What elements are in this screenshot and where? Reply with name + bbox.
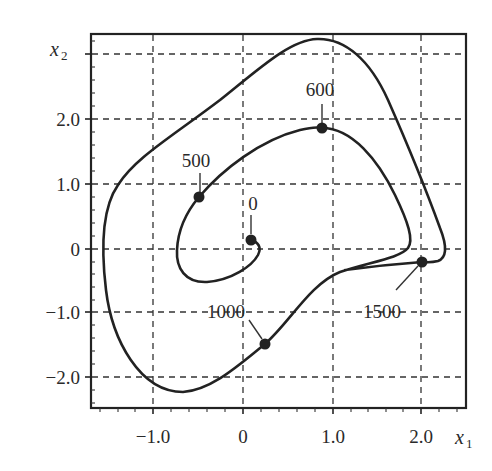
x-axis-title-sub: 1 [466,436,473,451]
major-ticks [85,54,421,414]
y-tick-label: 2.0 [56,109,80,130]
x-tick-labels: −1.0 0 1.0 2.0 [136,426,433,447]
plot-frame [91,34,466,408]
x-tick-label: 0 [238,426,248,447]
x-tick-label: 2.0 [409,426,433,447]
annotation-label: 600 [306,79,335,100]
annotation-0: 0 [246,193,258,246]
y-tick-label: −2.0 [46,367,80,388]
annotation-500: 500 [182,150,211,203]
data-point-marker [317,123,328,134]
annotation-600: 600 [306,79,335,134]
annotation-label: 1000 [207,301,245,322]
y-tick-label: 0 [71,239,81,260]
y-tick-label: −1.0 [46,302,80,323]
y-axis-title-sub: 2 [61,48,68,63]
annotation-label: 1500 [363,301,401,322]
x-axis-title-main: x [454,426,464,448]
x-axis-title: x 1 [454,426,473,451]
y-axis-title: x 2 [49,38,68,63]
data-point-marker [260,339,271,350]
annotation-1000: 1000 [207,301,271,350]
x-tick-label: 1.0 [321,426,345,447]
y-tick-labels: 2.0 1.0 0 −1.0 −2.0 [46,109,80,388]
annotation-label: 0 [248,193,258,214]
data-point-marker [246,235,257,246]
y-tick-label: 1.0 [56,174,80,195]
trajectory-curve [103,39,445,392]
data-point-marker [417,257,428,268]
annotation-label: 500 [182,150,211,171]
gridlines [92,35,466,408]
phase-portrait-chart: 2.0 1.0 0 −1.0 −2.0 −1.0 0 1.0 2.0 x 2 x… [0,0,492,471]
y-axis-title-main: x [49,38,59,60]
data-point-marker [194,192,205,203]
x-tick-label: −1.0 [136,426,170,447]
